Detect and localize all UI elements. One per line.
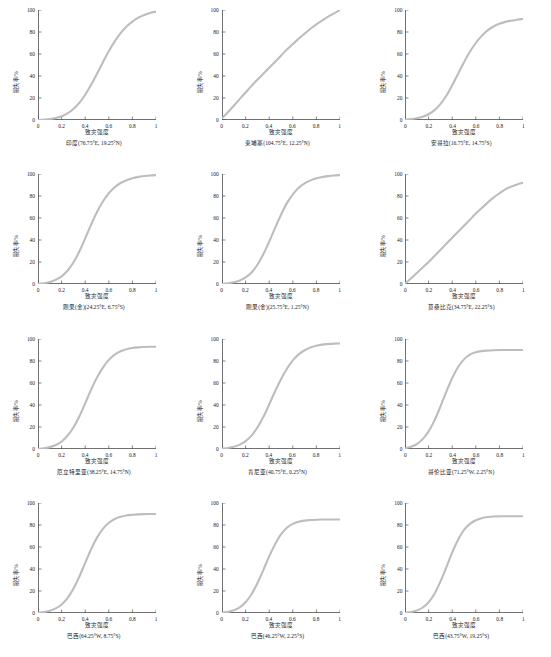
y-tick-label: 40 (213, 237, 218, 243)
y-axis-label: 损失率/% (12, 71, 19, 93)
panel-caption: 刚果(金)(24.25°E, 6.75°S) (10, 303, 178, 311)
y-axis-label: 损失率/% (12, 235, 19, 257)
panel-caption: 厄立特里亚(38.25°E, 14.75°N) (10, 468, 178, 476)
y-tick-label: 60 (30, 51, 35, 57)
panel-caption: 安哥拉(16.75°E, 14.75°S) (377, 139, 545, 147)
subplot-panel: 损失率/%02040608010000.20.40.60.81致灾强度刚果(金)… (184, 164, 368, 328)
y-tick-label: 40 (397, 566, 402, 572)
x-axis-label: 致灾强度 (405, 621, 523, 629)
y-tick-label: 40 (397, 73, 402, 79)
x-axis-label: 致灾强度 (222, 621, 340, 629)
plot-svg (222, 503, 340, 613)
plot-svg (405, 339, 523, 449)
y-tick-label: 20 (213, 259, 218, 265)
y-tick-label: 0 (216, 610, 219, 616)
y-tick-label: 100 (394, 500, 402, 506)
y-tick-label: 80 (30, 29, 35, 35)
y-tick-label: 100 (211, 336, 219, 342)
damage-curve (38, 175, 156, 284)
y-axis-label: 损失率/% (196, 400, 203, 422)
y-tick-label: 40 (213, 402, 218, 408)
panel-caption: 柬埔寨(104.75°E, 12.25°N) (194, 139, 362, 147)
x-axis-label: 致灾强度 (222, 128, 340, 136)
y-tick-label: 0 (216, 281, 219, 287)
y-tick-label: 40 (30, 566, 35, 572)
y-tick-label: 80 (213, 522, 218, 528)
damage-curve (38, 514, 156, 613)
y-axis-label: 损失率/% (12, 400, 19, 422)
figure-panel-grid: 损失率/%02040608010000.20.40.60.81致灾强度印度(76… (0, 0, 551, 657)
y-tick-label: 20 (397, 259, 402, 265)
plot-svg (222, 174, 340, 284)
y-tick-label: 80 (30, 358, 35, 364)
y-tick-label: 80 (397, 358, 402, 364)
y-tick-label: 20 (30, 424, 35, 430)
subplot-panel: 损失率/%02040608010000.20.40.60.81致灾强度巴西(64… (0, 493, 184, 657)
y-tick-label: 100 (211, 500, 219, 506)
y-tick-label: 100 (394, 7, 402, 13)
damage-curve (222, 175, 340, 284)
y-tick-label: 100 (27, 7, 35, 13)
y-tick-label: 100 (27, 500, 35, 506)
y-tick-label: 20 (213, 424, 218, 430)
y-tick-label: 100 (27, 336, 35, 342)
plot-area: 02040608010000.20.40.60.81 (38, 503, 156, 613)
y-tick-label: 100 (211, 7, 219, 13)
y-tick-label: 60 (213, 544, 218, 550)
subplot-panel: 损失率/%02040608010000.20.40.60.81致灾强度印度(76… (0, 0, 184, 164)
y-axis-label: 损失率/% (196, 564, 203, 586)
y-tick-label: 80 (397, 193, 402, 199)
x-axis-label: 致灾强度 (405, 457, 523, 465)
plot-svg (38, 10, 156, 120)
y-tick-label: 40 (30, 73, 35, 79)
y-tick-label: 40 (213, 73, 218, 79)
y-tick-label: 0 (400, 610, 403, 616)
plot-svg (405, 503, 523, 613)
x-axis-label: 致灾强度 (38, 292, 156, 300)
y-axis-label: 损失率/% (380, 71, 387, 93)
x-axis-label: 致灾强度 (38, 621, 156, 629)
y-tick-label: 100 (394, 171, 402, 177)
plot-area: 02040608010000.20.40.60.81 (405, 503, 523, 613)
y-axis-label: 损失率/% (380, 400, 387, 422)
y-tick-label: 60 (30, 380, 35, 386)
damage-curve (405, 516, 523, 613)
damage-curve (38, 12, 156, 120)
damage-curve (222, 343, 340, 448)
plot-area: 02040608010000.20.40.60.81 (222, 10, 340, 120)
subplot-panel: 损失率/%02040608010000.20.40.60.81致灾强度刚果(金)… (0, 164, 184, 328)
subplot-panel: 损失率/%02040608010000.20.40.60.81致灾强度肯尼亚(4… (184, 329, 368, 493)
plot-svg (222, 339, 340, 449)
subplot-panel: 损失率/%02040608010000.20.40.60.81致灾强度莫桑比克(… (367, 164, 551, 328)
subplot-panel: 损失率/%02040608010000.20.40.60.81致灾强度厄立特里亚… (0, 329, 184, 493)
x-axis-label: 致灾强度 (222, 457, 340, 465)
y-tick-label: 80 (213, 358, 218, 364)
subplot-panel: 损失率/%02040608010000.20.40.60.81致灾强度柬埔寨(1… (184, 0, 368, 164)
y-tick-label: 60 (213, 380, 218, 386)
y-tick-label: 40 (213, 566, 218, 572)
y-tick-label: 0 (216, 446, 219, 452)
plot-svg (38, 503, 156, 613)
subplot-panel: 损失率/%02040608010000.20.40.60.81致灾强度巴西(43… (367, 493, 551, 657)
y-axis-label: 损失率/% (380, 235, 387, 257)
damage-curve (38, 346, 156, 448)
panel-caption: 刚果(金)(25.75°E, 1.25°N) (194, 303, 362, 311)
y-tick-label: 40 (397, 402, 402, 408)
y-tick-label: 100 (27, 171, 35, 177)
y-tick-label: 20 (397, 95, 402, 101)
y-tick-label: 60 (397, 544, 402, 550)
y-axis-label: 损失率/% (196, 235, 203, 257)
y-tick-label: 60 (397, 380, 402, 386)
y-tick-label: 40 (397, 237, 402, 243)
y-tick-label: 80 (397, 522, 402, 528)
plot-svg (222, 10, 340, 120)
x-axis-label: 致灾强度 (405, 292, 523, 300)
y-tick-label: 80 (213, 193, 218, 199)
y-tick-label: 0 (32, 446, 35, 452)
plot-svg (405, 10, 523, 120)
x-axis-label: 致灾强度 (38, 128, 156, 136)
y-tick-label: 60 (30, 544, 35, 550)
y-axis-label: 损失率/% (380, 564, 387, 586)
panel-caption: 莫桑比克(34.75°E, 22.25°S) (377, 303, 545, 311)
damage-curve (405, 183, 523, 284)
